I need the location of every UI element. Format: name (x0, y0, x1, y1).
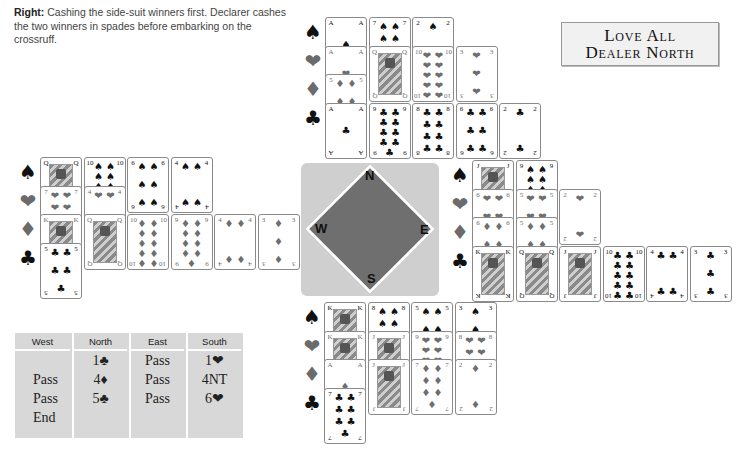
diamonds-pip-icon: ♦ (432, 388, 444, 398)
card-rank: 7 (444, 405, 450, 412)
card-rank: 9 (204, 217, 210, 224)
diamonds-pip-icon: ♦ (267, 237, 291, 247)
card-rank: 4 (204, 203, 210, 210)
hearts-pip-icon: ❤ (493, 194, 505, 204)
card-rank: K (357, 334, 363, 341)
diamonds-pip-icon: ♦ (464, 400, 488, 410)
clubs-pip-icon: ♣ (345, 405, 357, 415)
clubs-pip-icon: ♣ (333, 417, 345, 427)
card-rank: 7 (357, 434, 363, 441)
card-pips: ♠♠♠♠ (180, 162, 204, 208)
spades-pip-icon: ♠ (148, 198, 160, 208)
card-rank: 5 (549, 192, 555, 199)
spades-suit-icon: ♠ (17, 162, 39, 182)
card-rank: 7 (444, 362, 450, 369)
court-card-face (378, 53, 402, 95)
auction-bid: Pass (15, 389, 70, 408)
playing-card: 10101010♣♣♣♣♣♣♣♣♣♣ (603, 246, 645, 302)
card-pips: ❤❤❤❤❤❤❤❤❤❤ (421, 51, 445, 97)
hearts-pip-icon: ❤ (476, 348, 488, 358)
card-rank: 10 (117, 160, 123, 167)
card-rank: 3 (723, 292, 729, 299)
card-rank: A (358, 149, 364, 156)
card-rank: 4 (247, 260, 253, 267)
diamonds-pip-icon: ♦ (420, 364, 432, 374)
card-rank: Q (549, 292, 555, 299)
playing-card: QQQQ (516, 246, 558, 302)
clubs-pip-icon: ♣ (421, 108, 433, 118)
card-pips: ❤❤❤ (465, 51, 489, 97)
card-rank: 9 (402, 106, 408, 113)
card-rank: 4 (204, 160, 210, 167)
vulnerability-line-1: Love All (604, 27, 676, 44)
clubs-suit-icon: ♣ (17, 248, 39, 268)
clubs-pip-icon: ♣ (612, 271, 624, 281)
diamonds-pip-icon: ♦ (334, 79, 346, 89)
court-card-face (525, 253, 549, 295)
card-rank: 2 (532, 106, 538, 113)
diamonds-pip-icon: ♦ (186, 259, 198, 269)
card-rank: 9 (402, 149, 408, 156)
card-rank: J (401, 405, 407, 412)
hearts-pip-icon: ❤ (433, 81, 445, 91)
diamonds-pip-icon: ♦ (481, 222, 493, 232)
card-rank: Q (73, 160, 79, 167)
spades-suit-icon: ♠ (449, 165, 471, 185)
clubs-pip-icon: ♣ (612, 251, 624, 261)
card-rank: 4 (247, 217, 253, 224)
spades-pip-icon: ♠ (390, 22, 402, 32)
card-rank: 2 (592, 192, 598, 199)
spades-pip-icon: ♠ (377, 319, 389, 329)
caption: Right: Cashing the side-suit winners fir… (14, 6, 294, 47)
compass-south: S (367, 271, 376, 286)
diamonds-pip-icon: ♦ (267, 255, 291, 265)
playing-card: 2222♦♦ (455, 359, 497, 415)
card-rank: Q (549, 249, 555, 256)
diamonds-pip-icon: ♦ (420, 388, 432, 398)
card-rank: 6 (489, 149, 495, 156)
hearts-pip-icon: ❤ (432, 336, 444, 346)
clubs-pip-icon: ♣ (667, 287, 679, 297)
clubs-suit-icon: ♣ (302, 108, 324, 128)
hearts-pip-icon: ❤ (420, 346, 432, 356)
card-rank: 5 (358, 77, 364, 84)
hearts-pip-icon: ❤ (421, 51, 433, 61)
vulnerability-line-2: Dealer North (585, 44, 694, 61)
court-card-face (568, 253, 592, 295)
card-rank: K (357, 305, 363, 312)
auction-bid: Pass (15, 370, 70, 389)
hearts-suit-icon: ❤ (17, 191, 39, 211)
spades-pip-icon: ♠ (148, 162, 160, 172)
card-rank: 9 (444, 334, 450, 341)
spades-pip-icon: ♠ (432, 307, 444, 317)
card-rank: 8 (445, 106, 451, 113)
clubs-pip-icon: ♣ (390, 118, 402, 128)
spades-pip-icon: ♠ (390, 34, 402, 44)
auction-bid: 4♦ (74, 370, 127, 389)
hearts-pip-icon: ❤ (465, 51, 489, 61)
auction-bid (188, 408, 241, 427)
vulnerability-box: Love All Dealer North (561, 22, 719, 66)
clubs-pip-icon: ♣ (421, 120, 433, 130)
card-rank: 8 (445, 149, 451, 156)
card-rank: 10 (160, 217, 166, 224)
card-rank: 4 (679, 249, 685, 256)
hearts-pip-icon: ❤ (49, 203, 61, 213)
clubs-pip-icon: ♣ (384, 148, 396, 158)
clubs-pip-icon: ♣ (699, 251, 723, 261)
diamonds-pip-icon: ♦ (464, 364, 488, 374)
auction-table: West Pass Pass End North 1♣ 4♦ 5♣ East P… (15, 333, 243, 438)
spades-pip-icon: ♠ (378, 22, 390, 32)
card-pips: ♣♣ (508, 108, 532, 154)
card-rank: K (505, 292, 511, 299)
clubs-pip-icon: ♣ (378, 128, 390, 138)
clubs-pip-icon: ♣ (390, 138, 402, 148)
hearts-pip-icon: ❤ (568, 230, 592, 240)
card-rank: 3 (488, 305, 494, 312)
clubs-pip-icon: ♣ (655, 287, 667, 297)
playing-card: 3333♦♦♦ (258, 214, 300, 270)
card-pips: ♣♣♣♣♣♣♣ (333, 393, 357, 439)
diamonds-suit-icon: ♦ (301, 364, 323, 384)
clubs-pip-icon: ♣ (612, 291, 624, 301)
card-rank: 6 (505, 220, 511, 227)
